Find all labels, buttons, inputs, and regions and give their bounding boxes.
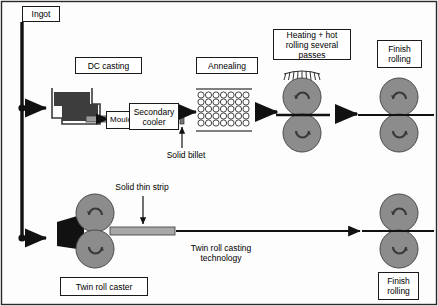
label-ingot: Ingot — [22, 6, 60, 22]
annotation-twin-roll-casting-technology: Twin roll casting technology — [180, 243, 262, 263]
solid-thin-strip-shape — [110, 227, 175, 235]
label-heating-hot-rolling: Heating + hot rolling several passes — [273, 29, 351, 60]
caster-roll-upper — [76, 194, 114, 232]
finish-rolling-stand-bottom — [362, 194, 434, 268]
label-finish-rolling-top: Finish rolling — [377, 40, 422, 68]
caster-roll-lower — [76, 230, 114, 268]
label-finish-rolling-bottom: Finish rolling — [378, 272, 419, 300]
hot-roll-upper — [283, 78, 321, 116]
label-twin-roll-caster: Twin roll caster — [60, 277, 148, 296]
finish-rolling-stand-top — [358, 78, 434, 152]
annotation-solid-billet: Solid billet — [157, 150, 215, 160]
twin-roll-caster-stand — [57, 194, 175, 268]
finish-roll-upper-top — [380, 78, 418, 116]
label-annealing: Annealing — [196, 57, 258, 74]
process-flow-diagram: Ingot DC casting Mould Secondary cooler … — [0, 0, 438, 306]
label-dc-casting: DC casting — [75, 57, 142, 74]
dc-casting-furnace — [52, 88, 108, 124]
annealing-furnace — [196, 89, 252, 131]
hot-roll-lower — [283, 114, 321, 152]
hot-rolling-stand — [276, 71, 330, 152]
annotation-solid-thin-strip: Solid thin strip — [107, 182, 177, 192]
finish-roll-lower-bottom — [380, 230, 418, 268]
finish-roll-upper-bottom — [380, 194, 418, 232]
solid-billet-shape — [180, 110, 184, 124]
label-secondary-cooler: Secondary cooler — [129, 103, 179, 130]
finish-roll-lower-top — [380, 114, 418, 152]
